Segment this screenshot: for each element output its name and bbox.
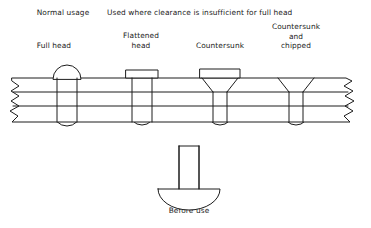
full-head-top-dome	[53, 65, 81, 79]
flattened-head-cap	[126, 70, 158, 78]
before-use-dome-head	[158, 189, 220, 210]
diagram-linework	[0, 0, 371, 228]
rivet-types-diagram: Normal usage Used where clearance is ins…	[0, 0, 371, 228]
plate-outline	[10, 78, 354, 122]
countersunk-head-cap	[200, 69, 240, 78]
